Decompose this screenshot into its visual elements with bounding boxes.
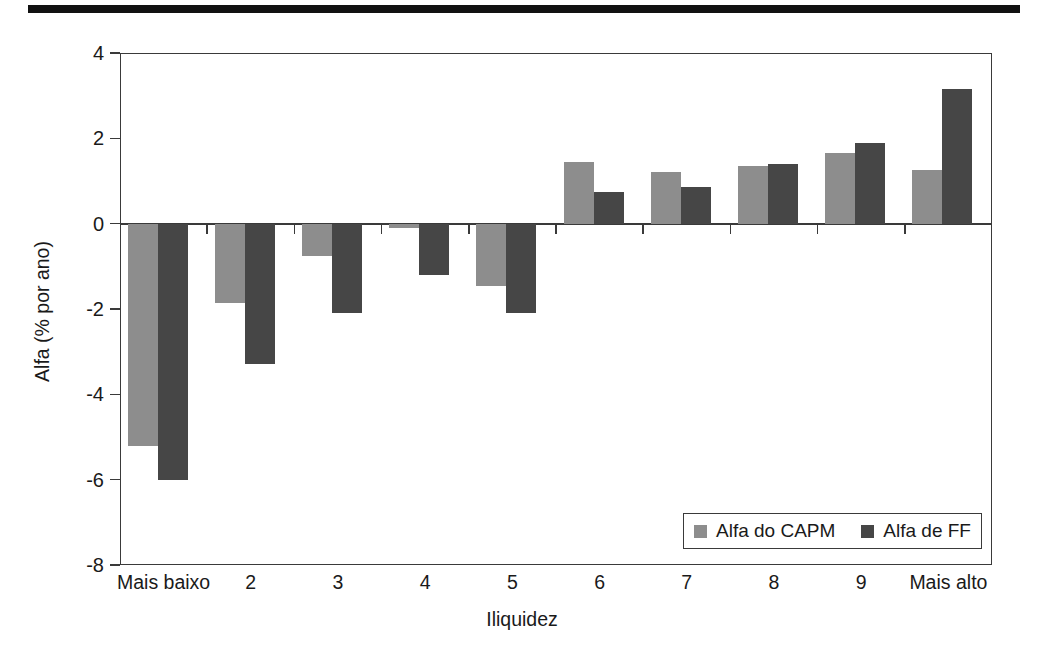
legend-swatch-ff-icon (861, 525, 874, 538)
bar-capm (128, 224, 158, 446)
y-axis-tick (110, 138, 120, 140)
x-axis-category-label: Mais alto (868, 571, 1028, 593)
y-axis-tick-label: -6 (44, 470, 104, 490)
chart-legend: Alfa do CAPM Alfa de FF (683, 513, 982, 549)
bar-capm (651, 172, 681, 223)
bar-ff (681, 187, 711, 223)
y-axis-tick-label: 2 (44, 128, 104, 148)
bar-ff (942, 89, 972, 223)
x-axis-tick (294, 223, 296, 234)
y-axis-tick (110, 479, 120, 481)
legend-entry-ff: Alfa de FF (861, 520, 971, 542)
y-axis-tick (110, 308, 120, 310)
bar-capm (738, 166, 768, 224)
legend-label-ff: Alfa de FF (883, 520, 971, 542)
bar-capm (215, 224, 245, 303)
bar-ff (158, 224, 188, 480)
chart-figure: 420-2-4-6-8 Mais baixo23456789Mais alto … (0, 0, 1044, 664)
bar-ff (594, 192, 624, 224)
bar-capm (389, 224, 419, 228)
y-axis-tick (110, 564, 120, 566)
y-axis-tick-label: 4 (44, 43, 104, 63)
x-axis-tick (817, 223, 819, 234)
x-axis-title: Iliquidez (0, 608, 1044, 631)
x-axis-tick (206, 223, 208, 234)
bar-ff (332, 224, 362, 314)
x-axis-tick (642, 223, 644, 234)
x-axis-tick (904, 223, 906, 234)
y-axis-tick (110, 52, 120, 54)
bar-capm (825, 153, 855, 223)
bar-ff (419, 224, 449, 275)
legend-label-capm: Alfa do CAPM (716, 520, 835, 542)
x-axis-tick (381, 223, 383, 234)
bar-capm (476, 224, 506, 286)
legend-swatch-capm-icon (694, 525, 707, 538)
legend-entry-capm: Alfa do CAPM (694, 520, 835, 542)
bar-ff (768, 164, 798, 224)
bar-ff (855, 143, 885, 224)
bar-capm (564, 162, 594, 224)
y-axis-title: Alfa (% por ano) (31, 212, 54, 412)
bar-capm (912, 170, 942, 223)
y-axis-tick (110, 394, 120, 396)
bar-ff (506, 224, 536, 314)
x-axis-tick (730, 223, 732, 234)
y-axis-tick (110, 223, 120, 225)
x-axis-tick (555, 223, 557, 234)
bar-capm (302, 224, 332, 256)
x-axis-tick (468, 223, 470, 234)
bar-ff (245, 224, 275, 365)
